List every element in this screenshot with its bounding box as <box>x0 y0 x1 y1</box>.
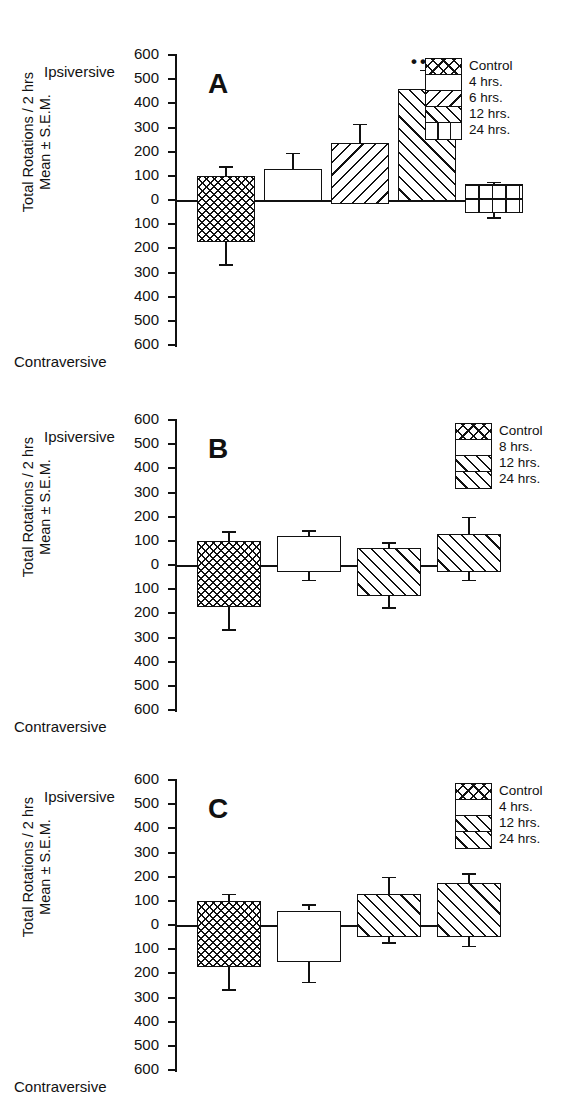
bar-4-hrs <box>277 911 341 963</box>
panel-letter-b: B <box>208 433 228 465</box>
y-tick-label: 400 <box>113 289 159 303</box>
y-axis-title-line2: Mean ± S.E.M. <box>37 94 53 190</box>
error-bar-cap <box>222 989 236 991</box>
y-tick-label: 200 <box>113 605 159 619</box>
legend-labels-b: Control8 hrs.12 hrs.24 hrs. <box>499 423 543 487</box>
legend-swatch <box>426 123 461 139</box>
bar-12-hrs <box>357 894 421 938</box>
y-tick-label: 400 <box>113 95 159 109</box>
y-tick-label: 600 <box>113 47 159 61</box>
y-tick-label: 0 <box>113 917 159 931</box>
contraversive-label: Contraversive <box>14 353 107 370</box>
bar-12-hrs <box>357 548 421 596</box>
legend-swatches-b <box>455 423 492 489</box>
y-tick-label: 300 <box>113 845 159 859</box>
y-tick-label: 200 <box>113 240 159 254</box>
bar-6-hrs <box>331 143 389 203</box>
error-bar-cap <box>219 166 233 168</box>
error-bar-lower <box>308 962 310 981</box>
error-bar-lower <box>225 242 227 264</box>
error-bar-cap <box>222 629 236 631</box>
contraversive-label: Contraversive <box>14 718 107 735</box>
legend-swatches-c <box>455 783 492 849</box>
error-bar-cap <box>382 942 396 944</box>
ipsiversive-label: Ipsiversive <box>44 788 115 805</box>
error-bar-cap <box>302 530 316 532</box>
legend-swatch <box>456 440 491 456</box>
y-tick-label: 600 <box>113 337 159 351</box>
legend-swatch <box>456 472 491 488</box>
panel-letter-a: A <box>208 68 228 100</box>
legend-swatch <box>426 91 461 107</box>
y-tick-label: 300 <box>113 265 159 279</box>
legend-swatch <box>456 800 491 816</box>
y-axis-title: Total Rotations / 2 hrs Mean ± S.E.M. <box>20 767 54 967</box>
legend-labels-a: Control4 hrs.6 hrs.12 hrs.24 hrs. <box>469 58 513 138</box>
y-axis-title: Total Rotations / 2 hrs Mean ± S.E.M. <box>20 407 54 607</box>
y-tick-label: 100 <box>113 533 159 547</box>
y-tick-label: 100 <box>113 216 159 230</box>
y-tick-label: 400 <box>113 654 159 668</box>
error-bar-cap <box>382 607 396 609</box>
legend-swatch <box>456 832 491 848</box>
bar-control <box>197 176 255 242</box>
y-tick-label: 400 <box>113 460 159 474</box>
error-bar-lower <box>228 967 230 989</box>
legend-label: 12 hrs. <box>499 455 543 471</box>
panel-c: Ipsiversive Contraversive Total Rotation… <box>0 745 566 1100</box>
y-tick-label: 300 <box>113 630 159 644</box>
error-bar-cap <box>302 580 316 582</box>
panel-letter-c: C <box>208 793 228 825</box>
error-bar-cap <box>302 904 316 906</box>
legend-swatch <box>456 424 491 440</box>
y-tick-label: 200 <box>113 509 159 523</box>
error-bar-cap <box>222 894 236 896</box>
y-tick-label: 200 <box>113 869 159 883</box>
y-tick-label: 300 <box>113 485 159 499</box>
y-axis-title-line1: Total Rotations / 2 hrs <box>20 797 36 937</box>
y-tick-label: 600 <box>113 772 159 786</box>
error-bar-cap <box>286 153 300 155</box>
error-bar-cap <box>462 580 476 582</box>
y-axis-title-line1: Total Rotations / 2 hrs <box>20 437 36 577</box>
y-tick-label: 600 <box>113 412 159 426</box>
y-axis-title: Total Rotations / 2 hrs Mean ± S.E.M. <box>20 42 54 242</box>
y-tick-label: 600 <box>113 1062 159 1076</box>
bar-control <box>197 541 261 607</box>
y-tick-label: 500 <box>113 796 159 810</box>
ipsiversive-label: Ipsiversive <box>44 63 115 80</box>
error-bar-cap <box>302 982 316 984</box>
y-axis-title-line2: Mean ± S.E.M. <box>37 819 53 915</box>
bar-4-hrs <box>264 169 322 202</box>
ipsiversive-label: Ipsiversive <box>44 428 115 445</box>
bar-8-hrs <box>277 536 341 572</box>
legend-label: Control <box>469 58 513 74</box>
y-tick-label: 300 <box>113 990 159 1004</box>
bar-24-hrs <box>465 184 523 213</box>
error-bar-cap <box>462 873 476 875</box>
error-bar-cap <box>462 517 476 519</box>
legend-label: Control <box>499 423 543 439</box>
bar-24-hrs <box>437 883 501 937</box>
legend-label: 24 hrs. <box>469 122 513 138</box>
legend-label: 4 hrs. <box>499 799 543 815</box>
y-tick-label: 200 <box>113 965 159 979</box>
y-tick-label: 100 <box>113 941 159 955</box>
error-bar-upper <box>292 153 294 169</box>
legend-label: 12 hrs. <box>469 106 513 122</box>
legend-label: 24 hrs. <box>499 831 543 847</box>
legend-swatch <box>456 456 491 472</box>
y-tick-label: 600 <box>113 702 159 716</box>
error-bar-lower <box>228 607 230 629</box>
error-bar-cap <box>487 182 501 184</box>
legend-label: 8 hrs. <box>499 439 543 455</box>
y-axis-title-line1: Total Rotations / 2 hrs <box>20 72 36 212</box>
legend-swatch <box>426 59 461 75</box>
y-tick-label: 500 <box>113 678 159 692</box>
panel-a: Ipsiversive Contraversive Total Rotation… <box>0 20 566 375</box>
legend-swatch <box>426 107 461 123</box>
error-bar-lower <box>468 572 470 579</box>
error-bar-upper <box>388 877 390 894</box>
y-tick-label: 100 <box>113 168 159 182</box>
y-tick-label: 500 <box>113 71 159 85</box>
